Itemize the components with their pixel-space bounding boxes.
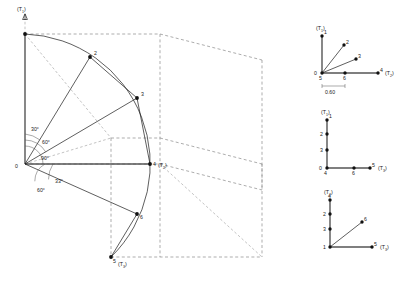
angle-label-60: 60° [42, 139, 50, 145]
inset-t1-t3: (T1) (T3) 1 2 3 4 5 6 0 [319, 109, 387, 176]
point-marker-3 [135, 96, 139, 100]
inset-bot-label-4: 4 [328, 193, 331, 199]
point-label-3: 3 [141, 91, 144, 97]
inset-mid-axis-label-t3: (T3) [378, 165, 387, 173]
inset-top-label-5: 5 [319, 75, 322, 81]
inset-bot-label-6: 6 [364, 216, 367, 222]
point-label-5: 5 [113, 258, 116, 264]
inset-bot-point-1 [328, 245, 331, 248]
angle-label-30: 30° [31, 126, 39, 132]
inset-t1-t2: (T1) (T2) 1 2 3 4 5 6 0 0.60 [314, 25, 394, 95]
inset-mid-label-6: 6 [352, 170, 355, 176]
point-label-2: 2 [94, 50, 97, 56]
inset-mid-origin: 0 [319, 165, 322, 171]
axis-label-t1-main: (T1) [17, 6, 26, 14]
inset-bot-axis-label-t3: (T3) [380, 244, 389, 252]
inset-top-label-2: 2 [346, 39, 349, 45]
chord-lines [90, 57, 150, 257]
main-spherical-diagram: (T1) 30° 60° 90° 33° [15, 6, 262, 269]
construction-diagonals [25, 34, 262, 257]
inset-mid-label-4: 4 [324, 170, 327, 176]
inset-bot-ray-6 [330, 222, 362, 247]
inset-mid-label-5: 5 [372, 162, 375, 168]
inset-bot-label-2: 2 [323, 211, 326, 217]
point-label-4: 4 [153, 161, 156, 167]
inset-top-label-1: 1 [324, 29, 327, 35]
axis-label-t3-main: (T3) [118, 261, 127, 269]
inset-bot-label-1: 1 [323, 244, 326, 250]
inset-top-origin: 0 [314, 70, 317, 76]
inset-top-label-6: 6 [343, 75, 346, 81]
inset-top-label-4: 4 [380, 67, 383, 73]
diagram-svg: (T1) 30° 60° 90° 33° [0, 0, 401, 282]
axis-label-t2-main: (T2) [158, 162, 167, 170]
inset-mid-label-1: 1 [329, 113, 332, 119]
inset-top-axis-label-t2: (T2) [385, 70, 394, 78]
figure-canvas: (T1) 30° 60° 90° 33° [0, 0, 401, 282]
angle-label-90: 90° [41, 155, 49, 161]
construction-box [25, 34, 262, 257]
inset-t2-t3: (T2) (T3) 4 2 3 1 5 6 [323, 189, 389, 252]
inset-bot-label-3: 3 [323, 226, 326, 232]
inset-bot-point-2 [328, 212, 331, 215]
point-marker-1 [23, 32, 27, 36]
angle-label-60-lower: 60° [37, 187, 45, 193]
inset-bot-point-3 [328, 227, 331, 230]
inset-bot-label-5: 5 [374, 241, 377, 247]
inset-top-dimension-label: 0.60 [325, 89, 335, 95]
inset-mid-point-3 [325, 148, 328, 151]
point-marker-6 [135, 212, 139, 216]
inset-mid-point-2 [325, 132, 328, 135]
point-marker-4 [148, 162, 152, 166]
inset-mid-label-2: 2 [320, 131, 323, 137]
inset-top-label-3: 3 [358, 53, 361, 59]
axis-t1-main [23, 14, 28, 34]
point-label-6: 6 [140, 214, 143, 220]
inset-mid-label-3: 3 [320, 147, 323, 153]
point-marker-2 [88, 55, 92, 59]
inset-top-dimension-line [322, 84, 345, 88]
angle-label-33: 33° [55, 178, 63, 184]
origin-label-main: 0 [15, 163, 18, 169]
